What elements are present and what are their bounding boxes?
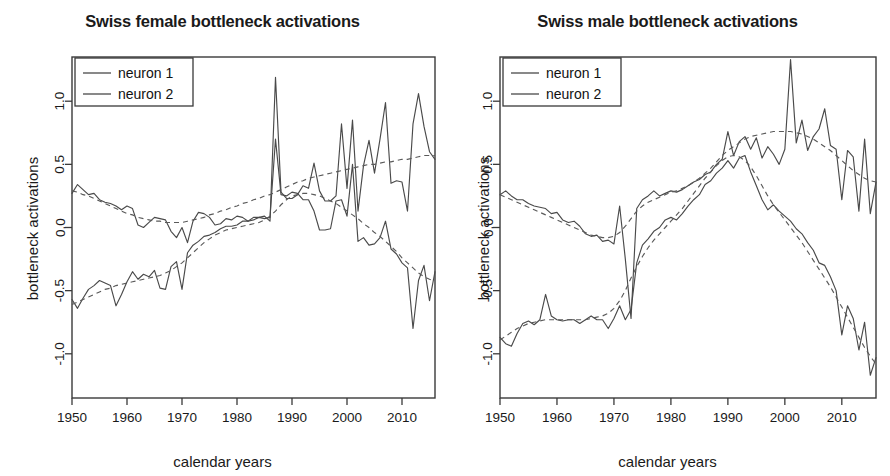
x-tick-label: 1970 (167, 410, 197, 425)
trend-line-neuron-1-smooth (72, 156, 435, 223)
y-tick-label: -1.0 (53, 342, 68, 365)
x-tick-label: 1950 (57, 410, 87, 425)
legend-label: neuron 2 (118, 86, 173, 102)
y-tick-label: 1.0 (481, 92, 496, 111)
legend[interactable]: neuron 1neuron 2 (503, 58, 621, 106)
legend-label: neuron 2 (546, 86, 601, 102)
y-tick-label: 0.5 (53, 155, 68, 174)
x-tick-label: 1990 (713, 410, 743, 425)
y-tick-label: 1.0 (53, 92, 68, 111)
trend-line-neuron-2-smooth (72, 193, 435, 304)
x-tick-label: 1950 (485, 410, 515, 425)
plot-frame (500, 57, 876, 398)
x-tick-label: 1980 (656, 410, 686, 425)
x-tick-label: 2000 (332, 410, 362, 425)
series-line-neuron-2 (500, 156, 876, 376)
panel-swiss-male: Swiss male bottleneck activations bottle… (445, 0, 890, 476)
plot-area-female: 1950196019701980199020002010-1.0-0.50.00… (0, 0, 445, 476)
legend[interactable]: neuron 1neuron 2 (75, 58, 193, 106)
series-line-neuron-2 (72, 139, 435, 328)
x-tick-label: 2000 (770, 410, 800, 425)
plot-frame (72, 57, 435, 398)
x-tick-label: 1980 (222, 410, 252, 425)
panel-swiss-female: Swiss female bottleneck activations bott… (0, 0, 445, 476)
y-tick-label: -1.0 (481, 342, 496, 365)
y-tick-label: -0.5 (53, 279, 68, 302)
trend-line-neuron-1-smooth (500, 132, 876, 238)
y-tick-label: 0.5 (481, 155, 496, 174)
x-tick-label: 1970 (599, 410, 629, 425)
x-tick-label: 2010 (827, 410, 857, 425)
x-tick-label: 1990 (277, 410, 307, 425)
figure-two-panel-line-charts: Swiss female bottleneck activations bott… (0, 0, 890, 476)
legend-label: neuron 1 (118, 65, 173, 81)
y-tick-label: 0.0 (481, 218, 496, 237)
x-tick-label: 1960 (112, 410, 142, 425)
trend-line-neuron-2-smooth (500, 156, 876, 364)
y-tick-label: -0.5 (481, 279, 496, 302)
x-tick-label: 2010 (387, 410, 417, 425)
y-tick-label: 0.0 (53, 218, 68, 237)
legend-label: neuron 1 (546, 65, 601, 81)
plot-area-male: 1950196019701980199020002010-1.0-0.50.00… (445, 0, 890, 476)
x-tick-label: 1960 (542, 410, 572, 425)
